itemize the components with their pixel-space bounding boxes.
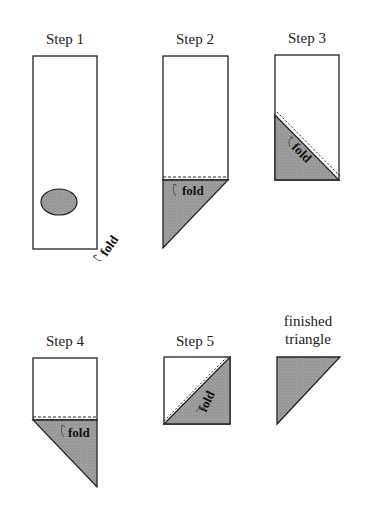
step-3-label: Step 3 bbox=[288, 30, 326, 46]
step-4: Step 4 fold bbox=[33, 333, 97, 487]
step-1-label: Step 1 bbox=[46, 31, 84, 47]
step-5-label: Step 5 bbox=[176, 333, 214, 349]
fold-arrow-icon bbox=[93, 254, 103, 262]
finished-label-line2: triangle bbox=[285, 331, 331, 347]
step-3: Step 3 fold bbox=[275, 30, 341, 180]
folding-diagram: Step 1 fold Step 2 fold Step 3 fold Step… bbox=[0, 0, 376, 518]
oval-mark bbox=[41, 189, 77, 215]
paper-strip bbox=[163, 56, 228, 180]
finished-triangle-step: finished triangle bbox=[277, 313, 340, 424]
fold-label: fold bbox=[182, 183, 204, 198]
paper-square bbox=[33, 358, 97, 420]
finished-label-line1: finished bbox=[284, 313, 333, 329]
step-2: Step 2 fold bbox=[163, 31, 228, 248]
fold-label: fold bbox=[68, 425, 90, 440]
step-2-label: Step 2 bbox=[176, 31, 214, 47]
paper-strip bbox=[33, 56, 97, 249]
fold-label: fold bbox=[97, 232, 122, 259]
step-1: Step 1 fold bbox=[33, 31, 122, 265]
step-5: Step 5 fold bbox=[164, 333, 230, 424]
finished-triangle bbox=[277, 357, 340, 424]
step-4-label: Step 4 bbox=[46, 333, 84, 349]
